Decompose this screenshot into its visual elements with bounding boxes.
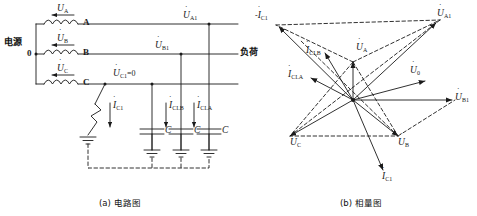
fault-lead	[95, 84, 105, 104]
label-uc: ˙UC	[57, 64, 68, 74]
label-icib-circuit: ˙ICI.B	[169, 101, 184, 111]
coil-b	[44, 50, 78, 54]
label-icia-circuit: ˙ICI.A	[197, 101, 212, 111]
label-ua: ˙UA	[57, 4, 68, 14]
tap-node-c2	[151, 83, 154, 86]
phase-label-b: B	[83, 48, 89, 57]
phasor-ic1	[353, 100, 383, 170]
dashed-b-to-b1	[398, 100, 455, 136]
phase-label-c: C	[83, 78, 90, 87]
dashed-a-to-a1	[353, 20, 440, 62]
ground-icon-c	[144, 150, 160, 157]
figure-vector-layer	[0, 0, 477, 216]
phase-label-a: A	[83, 18, 90, 27]
label-ic1-circuit: ˙IC1	[113, 101, 123, 111]
dashed-diag-1	[290, 20, 440, 136]
caption-b: (b) 相量图	[340, 199, 382, 208]
phasor-label-ub1: ˙UB1	[455, 93, 469, 103]
caption-a: (a) 电路图	[99, 199, 141, 208]
phasor-label-ub: ˙UB	[398, 138, 409, 148]
label-ub: ˙UB	[57, 34, 68, 44]
phasor-ub	[353, 100, 398, 136]
neutral-label: 0	[27, 49, 32, 58]
capacitor-label-b: C	[194, 126, 200, 136]
dashed-return-path	[88, 144, 209, 168]
phasor-label-u0: ˙U0	[410, 66, 420, 76]
phasor-label-uc: ˙UC	[290, 138, 301, 148]
dashed-a-to-negic1	[276, 25, 353, 62]
coil-c	[44, 80, 78, 84]
phasor-label-ua1: ˙UA1	[437, 9, 451, 19]
phasor-uc	[290, 100, 353, 136]
fault-arc-icon	[88, 104, 101, 135]
label-ua1: ˙UA1	[183, 11, 197, 21]
ground-icon-a	[201, 150, 217, 157]
phasor-label-ua: ˙UA	[356, 43, 367, 53]
phasor-origin	[351, 98, 355, 102]
load-label: 负荷	[240, 48, 258, 57]
dashed-negic1-to-a1	[276, 20, 440, 25]
source-label: 电源	[4, 38, 22, 47]
phasor-label-icib: ˙ICI.B	[306, 46, 321, 56]
tap-node-b	[180, 53, 183, 56]
tap-node-a	[208, 23, 211, 26]
phasor-label-icia: ˙ICI.A	[288, 70, 303, 80]
coil-a	[44, 20, 78, 24]
ground-icon-b	[173, 150, 189, 157]
phasor-ua1	[353, 23, 436, 100]
neutral-node	[35, 53, 38, 56]
tap-node-c	[104, 83, 107, 86]
capacitor-label-c: C	[165, 126, 171, 136]
figure-ground-fault: 电源 0 负荷 A B C ˙UA ˙UB ˙UC ˙UA1 ˙UB1 ˙UC1…	[0, 0, 477, 216]
phasor-label-neg-ic1: -˙IC1	[255, 11, 268, 21]
phasor-label-ic1: ˙IC1	[382, 172, 392, 182]
fault-ground-icon	[80, 137, 96, 144]
label-uc1: ˙UC1=0	[113, 69, 135, 79]
label-ub1: ˙UB1	[155, 41, 169, 51]
capacitor-label-a: C	[222, 126, 228, 136]
